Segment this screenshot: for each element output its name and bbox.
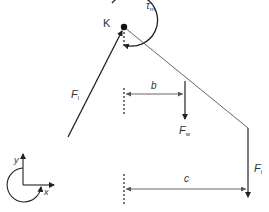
force-label-fl-diagonal: Fl — [71, 88, 79, 101]
lever-line — [124, 27, 248, 128]
force-label-fl-vertical: Fl — [254, 162, 262, 175]
force-label-fw: Fw — [179, 124, 191, 137]
force-arrow-fl-diagonal — [68, 31, 122, 137]
free-body-diagram: K τm Fl b Fw Fl c y x — [0, 0, 269, 212]
distance-label-b: b — [151, 80, 157, 91]
pivot-label: K — [103, 17, 111, 29]
distance-label-c: c — [184, 173, 189, 184]
pivot-point — [121, 24, 127, 30]
axis-label-x: x — [43, 187, 49, 197]
axis-label-y: y — [13, 155, 19, 165]
